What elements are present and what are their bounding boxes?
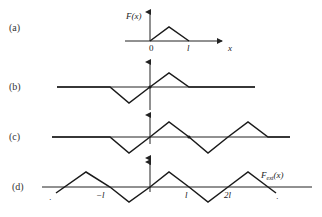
x-axis-label: x bbox=[227, 43, 232, 53]
y-axis-label: F(x) bbox=[125, 11, 142, 21]
triangle-pulse bbox=[150, 27, 189, 41]
tick-l: l bbox=[187, 43, 190, 53]
panel-d-label: (d) bbox=[12, 181, 24, 193]
panel-a: (a) F(x) 0 l x bbox=[9, 11, 232, 53]
panel-b: (b) bbox=[9, 62, 255, 110]
panel-a-label: (a) bbox=[9, 22, 20, 34]
ellipsis-right: · bbox=[276, 193, 278, 203]
tick-neg-l: −l bbox=[96, 190, 105, 200]
curve-label: Fext(x) bbox=[260, 170, 284, 181]
panel-d: (d) · · −l l 2l Fext(x) bbox=[12, 162, 312, 204]
odd-extension-curve bbox=[57, 73, 255, 103]
tick-l: l bbox=[185, 190, 188, 200]
ellipsis-left: · bbox=[49, 194, 51, 204]
junction-dot bbox=[187, 135, 190, 138]
panel-c: (c) bbox=[9, 115, 290, 165]
panel-b-label: (b) bbox=[9, 81, 21, 93]
tick-2l: 2l bbox=[224, 190, 232, 200]
tick-0: 0 bbox=[149, 43, 154, 53]
function-extension-diagram: (a) F(x) 0 l x (b) (c) (d) · · −l l 2l F… bbox=[0, 0, 322, 217]
origin-dot bbox=[148, 85, 151, 88]
panel-c-label: (c) bbox=[9, 131, 20, 143]
